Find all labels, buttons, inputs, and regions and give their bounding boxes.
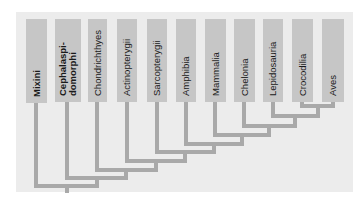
cladogram-branches [0,0,364,203]
branch-crocodilia-aves [302,102,333,106]
